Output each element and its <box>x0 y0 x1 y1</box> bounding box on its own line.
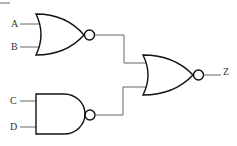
nor-gate-3 <box>143 55 204 95</box>
inversion-bubble <box>85 110 95 120</box>
input-label-d: D <box>10 121 17 132</box>
nand-gate-2 <box>36 94 95 134</box>
input-label-b: B <box>11 41 18 52</box>
input-label-c: C <box>10 95 17 106</box>
output-label-z: Z <box>223 66 229 77</box>
logic-circuit-diagram: A B C D Z <box>0 0 237 146</box>
input-label-a: A <box>11 18 19 29</box>
wire-gate1-to-gate3 <box>95 35 146 63</box>
inversion-bubble <box>194 70 204 80</box>
nor-gate-1 <box>36 14 95 55</box>
inversion-bubble <box>85 30 95 40</box>
wire-gate2-to-gate3 <box>95 87 146 115</box>
